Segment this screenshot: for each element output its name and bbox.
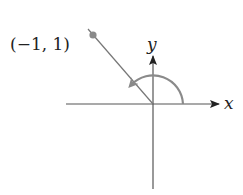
- x-axis-label: x: [224, 93, 234, 113]
- y-axis-label: y: [146, 34, 157, 54]
- diagram-canvas: (−1, 1) x y: [0, 0, 243, 195]
- terminal-ray: [88, 29, 153, 104]
- angle-arc: [131, 75, 183, 104]
- point-label: (−1, 1): [10, 34, 70, 54]
- point-marker: [89, 31, 96, 38]
